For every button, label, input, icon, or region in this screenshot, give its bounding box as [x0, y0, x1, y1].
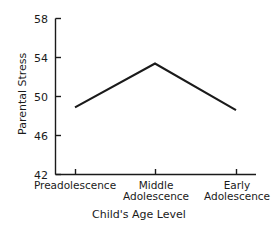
data-series-parental-stress	[75, 64, 236, 111]
x-tick-label-middle-adolescence-line2: Adolescence	[111, 191, 201, 202]
x-tick-label-preadolescence: Preadolescence	[25, 180, 125, 191]
x-tick-label-early-adolescence-line2: Adolescence	[192, 191, 278, 202]
y-tick-label-46: 46	[26, 131, 48, 142]
x-tick-label-preadolescence-line1: Preadolescence	[34, 179, 116, 191]
y-tick-label-50: 50	[26, 92, 48, 103]
y-tick-label-58: 58	[26, 14, 48, 25]
y-axis-title: Parental Stress	[16, 53, 29, 135]
x-axis-ticks	[76, 169, 237, 175]
y-tick-label-54: 54	[26, 53, 48, 64]
line-chart: 58 54 50 46 42 Preadolescence Middle Ado…	[0, 0, 278, 227]
x-tick-label-middle-adolescence: Middle Adolescence	[111, 180, 201, 201]
x-tick-label-early-adolescence: Early Adolescence	[192, 180, 278, 201]
y-axis-ticks	[56, 19, 62, 175]
x-axis-title: Child's Age Level	[0, 208, 278, 221]
